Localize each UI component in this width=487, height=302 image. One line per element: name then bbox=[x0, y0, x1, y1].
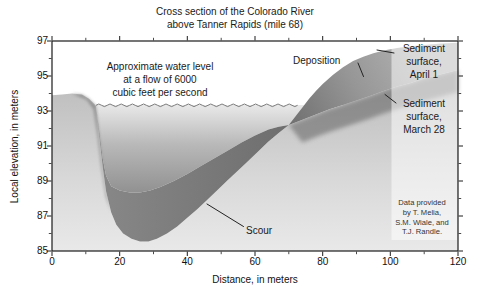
sediment-march-line: March 28 bbox=[393, 123, 455, 136]
water-level-note-line: Approximate water level bbox=[95, 60, 225, 73]
cross-section-figure: Cross section of the Colorado River abov… bbox=[0, 0, 487, 302]
y-tick-label: 89 bbox=[26, 175, 48, 186]
x-tick-label: 60 bbox=[240, 256, 270, 267]
water-level-note-line: at a flow of 6000 bbox=[95, 73, 225, 86]
data-credit-line: S.M. Wiale, and bbox=[391, 218, 453, 228]
sediment-surface-april-label: Sediment surface, April 1 bbox=[394, 42, 454, 81]
x-tick-label: 120 bbox=[443, 256, 473, 267]
x-tick-label: 40 bbox=[172, 256, 202, 267]
data-credit-line: Data provided bbox=[391, 198, 453, 208]
data-credit-line: by T. Melia, bbox=[391, 208, 453, 218]
sediment-march-line: surface, bbox=[393, 110, 455, 123]
y-tick-label: 91 bbox=[26, 140, 48, 151]
sediment-april-line: surface, bbox=[394, 55, 454, 68]
chart-title-line2: above Tanner Rapids (mile 68) bbox=[18, 19, 452, 30]
chart-title-line1: Cross section of the Colorado River bbox=[18, 6, 452, 17]
y-tick-label: 87 bbox=[26, 210, 48, 221]
water-level-note-line: cubic feet per second bbox=[95, 86, 225, 99]
scour-label: Scour bbox=[246, 225, 272, 236]
x-tick-label: 0 bbox=[37, 256, 67, 267]
x-tick-label: 80 bbox=[308, 256, 338, 267]
x-tick-label: 20 bbox=[105, 256, 135, 267]
deposition-label: Deposition bbox=[293, 55, 340, 66]
y-tick-label: 93 bbox=[26, 105, 48, 116]
sediment-april-line: Sediment bbox=[394, 42, 454, 55]
y-tick-label: 97 bbox=[26, 35, 48, 46]
data-credit-line: T.J. Randle. bbox=[391, 227, 453, 237]
sediment-surface-march-label: Sediment surface, March 28 bbox=[393, 97, 455, 136]
water-level-note: Approximate water level at a flow of 600… bbox=[95, 60, 225, 99]
y-tick-label: 85 bbox=[26, 245, 48, 256]
sediment-march-line: Sediment bbox=[393, 97, 455, 110]
x-tick-label: 100 bbox=[375, 256, 405, 267]
sediment-april-line: April 1 bbox=[394, 68, 454, 81]
y-axis-label: Local elevation, in meters bbox=[9, 67, 20, 227]
y-tick-label: 95 bbox=[26, 70, 48, 81]
data-credit: Data provided by T. Melia, S.M. Wiale, a… bbox=[391, 198, 453, 237]
x-axis-label: Distance, in meters bbox=[155, 274, 355, 285]
